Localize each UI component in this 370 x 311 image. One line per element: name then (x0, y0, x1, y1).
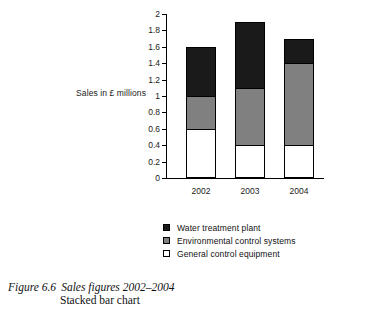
y-tick-label: 0 (155, 174, 160, 183)
y-tick-mark (162, 162, 166, 163)
legend-label: Environmental control systems (177, 236, 296, 246)
legend-item: Water treatment plant (163, 221, 296, 234)
y-tick-mark (162, 112, 166, 113)
y-tick-mark (162, 63, 166, 64)
bar-segment (235, 145, 265, 178)
x-axis-label-2002: 2002 (181, 186, 221, 196)
y-tick-mark (162, 80, 166, 81)
y-tick-label: 1 (155, 92, 160, 101)
legend-swatch-icon (163, 224, 170, 231)
y-tick-mark (162, 30, 166, 31)
y-tick-mark (162, 96, 166, 97)
figure-caption: Figure 6.6Sales figures 2002–2004 Stacke… (8, 281, 174, 306)
y-tick-mark (162, 129, 166, 130)
bar-segment (284, 145, 314, 178)
bar-segment (284, 63, 314, 145)
bar-segment (235, 22, 265, 88)
legend-label: Water treatment plant (177, 223, 261, 233)
y-tick-mark (162, 178, 166, 179)
figure-chart: Sales in £ millions 00.20.40.60.811.21.4… (0, 0, 370, 272)
bar-2004: 2004 (284, 39, 314, 178)
y-tick-label: 1.4 (148, 59, 160, 68)
y-tick-mark (162, 14, 166, 15)
legend-label: General control equipment (177, 249, 280, 259)
chart-legend: Water treatment plantEnvironmental contr… (163, 221, 296, 260)
caption-figure-number: Figure 6.6 (8, 281, 56, 293)
bar-segment (186, 129, 216, 178)
bar-2002: 2002 (186, 47, 216, 178)
caption-subtitle: Stacked bar chart (60, 294, 174, 306)
y-tick-label: 1.2 (148, 75, 160, 84)
y-tick-label: 0.2 (148, 157, 160, 166)
legend-item: General control equipment (163, 247, 296, 260)
plot-area: 00.20.40.60.811.21.41.61.82 200220032004 (166, 14, 324, 179)
legend-swatch-icon (163, 237, 170, 244)
bar-segment (284, 39, 314, 64)
bar-segment (186, 96, 216, 129)
y-tick-label: 1.8 (148, 26, 160, 35)
y-tick-label: 0.4 (148, 141, 160, 150)
x-axis-label-2004: 2004 (279, 186, 319, 196)
y-axis-line (166, 14, 167, 179)
y-axis-title: Sales in £ millions (42, 88, 146, 98)
caption-title: Sales figures 2002–2004 (61, 281, 174, 293)
caption-line-primary: Figure 6.6Sales figures 2002–2004 (8, 281, 174, 293)
legend-item: Environmental control systems (163, 234, 296, 247)
y-tick-mark (162, 145, 166, 146)
x-axis-line (166, 178, 324, 179)
bar-segment (186, 47, 216, 96)
y-tick-label: 2 (155, 10, 160, 19)
x-axis-label-2003: 2003 (230, 186, 270, 196)
legend-swatch-icon (163, 250, 170, 257)
y-tick-label: 0.8 (148, 108, 160, 117)
y-tick-label: 0.6 (148, 125, 160, 134)
bar-segment (235, 88, 265, 145)
y-tick-mark (162, 47, 166, 48)
bar-2003: 2003 (235, 22, 265, 178)
y-tick-label: 1.6 (148, 43, 160, 52)
